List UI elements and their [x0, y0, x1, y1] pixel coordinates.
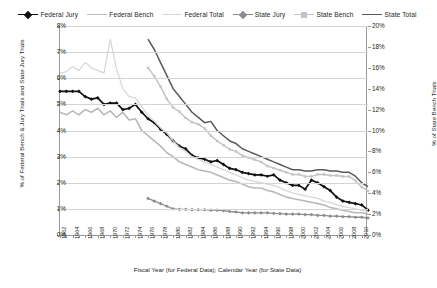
data-point [298, 173, 300, 175]
x-axis-tick-label: 1978 [162, 227, 168, 239]
legend-item-federal-total[interactable]: Federal Total [162, 10, 223, 19]
data-point [159, 85, 161, 87]
legend-label: State Total [384, 11, 416, 18]
data-point [228, 210, 232, 214]
gridline [60, 183, 368, 184]
x-axis-tick-label: 1976 [149, 227, 155, 239]
data-point [64, 89, 68, 93]
gridline [60, 104, 368, 105]
right-axis-tick-label: 18% [372, 43, 412, 50]
legend-label: Federal Total [184, 11, 223, 18]
data-point [354, 215, 358, 219]
x-axis-tick-label: 1980 [175, 227, 181, 239]
x-tick-mark [85, 235, 86, 238]
data-point [259, 173, 263, 177]
data-point [360, 215, 364, 219]
data-point [247, 211, 251, 215]
legend-label: State Jury [255, 11, 286, 18]
data-point [347, 201, 351, 205]
data-point [310, 213, 314, 217]
series-state-bench [147, 67, 369, 193]
left-axis-tick-label: 1% [26, 205, 66, 212]
x-axis-title: Fiscal Year (for Federal Data); Calendar… [0, 266, 435, 273]
data-point [240, 211, 244, 215]
data-point [153, 75, 155, 77]
right-axis-tick-label: 12% [372, 106, 412, 113]
data-point [266, 211, 270, 215]
x-axis-tick-label: 1964 [74, 227, 80, 239]
x-axis-tick-label: 2008 [351, 227, 357, 239]
legend-item-federal-bench[interactable]: Federal Bench [87, 10, 153, 19]
legend-label: Federal Bench [109, 11, 153, 18]
data-point [71, 89, 75, 93]
x-axis-tick-label: 1968 [99, 227, 105, 239]
data-point [341, 215, 345, 219]
x-axis-tick-label: 1992 [250, 227, 256, 239]
right-axis-tick-label: 14% [372, 85, 412, 92]
data-point [291, 212, 295, 216]
right-tick-mark [368, 110, 371, 111]
data-point [328, 214, 332, 218]
left-axis-tick-label: 8% [26, 22, 66, 29]
data-point [147, 67, 149, 69]
data-point [203, 127, 205, 129]
gridline [60, 157, 368, 158]
data-point [272, 211, 276, 215]
right-tick-mark [368, 214, 371, 215]
x-axis-tick-label: 1982 [187, 227, 193, 239]
left-axis-tick-label: 7% [26, 48, 66, 55]
data-point [253, 173, 257, 177]
plot-area [59, 26, 367, 235]
x-axis-tick-label: 1962 [61, 227, 67, 239]
data-point [323, 173, 325, 175]
legend-item-state-total[interactable]: State Total [362, 10, 416, 19]
data-point [297, 212, 301, 216]
x-axis-tick-label: 1972 [124, 227, 130, 239]
data-point [172, 106, 174, 108]
data-point [159, 202, 163, 206]
legend-item-federal-jury[interactable]: Federal Jury [18, 10, 78, 19]
data-point [304, 175, 306, 177]
legend-swatch-icon [362, 10, 382, 19]
data-point [284, 212, 288, 216]
legend-label: Federal Jury [40, 11, 78, 18]
data-point [335, 174, 337, 176]
left-axis-title: % of Federal Bench & Jury Trials and Sta… [18, 14, 25, 214]
right-axis-title: % of State Bench Trials [430, 14, 437, 214]
legend-item-state-bench[interactable]: State Bench [294, 10, 353, 19]
data-point [197, 123, 199, 125]
x-axis-tick-label: 1996 [275, 227, 281, 239]
data-point [235, 150, 237, 152]
right-axis-tick-label: 16% [372, 64, 412, 71]
data-point [229, 148, 231, 150]
chart-legend: Federal JuryFederal BenchFederal TotalSt… [0, 10, 435, 19]
series-federal-jury [58, 89, 370, 212]
left-axis-tick-label: 6% [26, 74, 66, 81]
right-axis-tick-label: 10% [372, 127, 412, 134]
right-tick-mark [368, 47, 371, 48]
x-axis-tick-label: 2006 [338, 227, 344, 239]
data-point [254, 159, 256, 161]
legend-swatch-icon [233, 10, 253, 19]
legend-swatch-icon [87, 10, 107, 19]
left-axis-tick-label: 3% [26, 153, 66, 160]
x-axis-tick-label: 1998 [288, 227, 294, 239]
data-point [310, 175, 312, 177]
right-tick-mark [368, 151, 371, 152]
x-axis-tick-label: 1994 [263, 227, 269, 239]
data-point [253, 211, 257, 215]
legend-item-state-jury[interactable]: State Jury [233, 10, 286, 19]
data-point [259, 211, 263, 215]
data-point [279, 169, 281, 171]
legend-swatch-icon [162, 10, 182, 19]
gridline [60, 209, 368, 210]
data-point [329, 174, 331, 176]
x-axis-tick-label: 1970 [112, 227, 118, 239]
data-point [185, 117, 187, 119]
data-point [273, 167, 275, 169]
left-axis-tick-label: 2% [26, 179, 66, 186]
x-axis-tick-label: 2000 [300, 227, 306, 239]
right-axis-tick-label: 4% [372, 189, 412, 196]
data-point [354, 202, 358, 206]
